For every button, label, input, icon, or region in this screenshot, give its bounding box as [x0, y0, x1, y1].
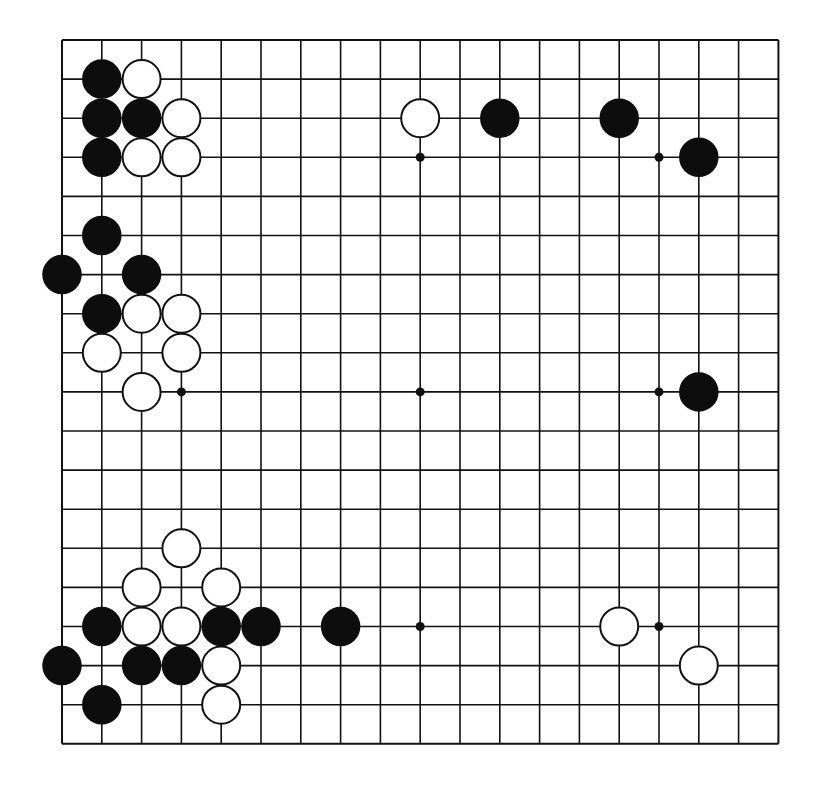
star-point [177, 387, 186, 396]
white-stone [202, 647, 240, 685]
white-stone [162, 334, 200, 372]
white-stone [123, 138, 161, 176]
white-stone [162, 99, 200, 137]
white-stone [680, 647, 718, 685]
white-stone [202, 686, 240, 724]
white-stone [123, 295, 161, 333]
go-board[interactable] [0, 0, 820, 788]
white-stone [600, 608, 638, 646]
black-stone [202, 608, 240, 646]
star-point [416, 622, 425, 631]
black-stone [43, 256, 81, 294]
star-point [655, 387, 664, 396]
white-stone [123, 373, 161, 411]
black-stone [123, 256, 161, 294]
white-stone [162, 295, 200, 333]
star-point [655, 622, 664, 631]
go-board-svg[interactable] [0, 0, 820, 788]
star-point [416, 387, 425, 396]
white-stone [162, 138, 200, 176]
black-stone [481, 99, 519, 137]
black-stone [83, 138, 121, 176]
black-stone [83, 295, 121, 333]
star-point [655, 153, 664, 162]
white-stone [123, 60, 161, 98]
black-stone [123, 647, 161, 685]
white-stone [202, 568, 240, 606]
white-stone [123, 568, 161, 606]
black-stone [123, 99, 161, 137]
white-stone [401, 99, 439, 137]
white-stone [123, 608, 161, 646]
black-stone [242, 608, 280, 646]
black-stone [43, 647, 81, 685]
black-stone [322, 608, 360, 646]
black-stone [83, 217, 121, 255]
star-point [416, 153, 425, 162]
white-stone [162, 529, 200, 567]
black-stone [83, 99, 121, 137]
white-stone [162, 608, 200, 646]
black-stone [83, 686, 121, 724]
black-stone [680, 373, 718, 411]
black-stone [600, 99, 638, 137]
black-stone [83, 60, 121, 98]
white-stone [83, 334, 121, 372]
black-stone [83, 608, 121, 646]
black-stone [680, 138, 718, 176]
black-stone [162, 647, 200, 685]
